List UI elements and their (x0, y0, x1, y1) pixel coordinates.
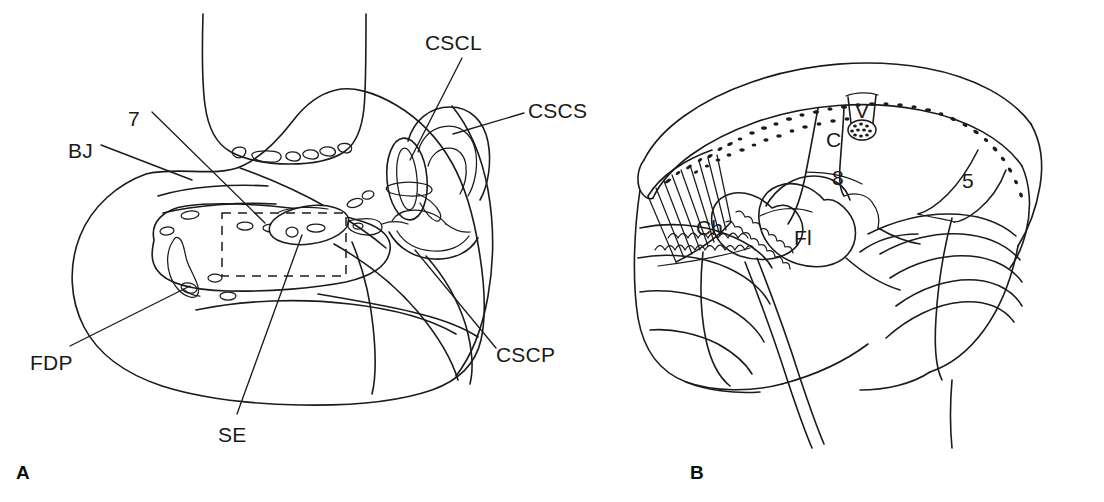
mastoid-contour-1 (158, 185, 268, 196)
leader-se (237, 235, 302, 414)
petrous-contour-2 (426, 256, 472, 384)
panel-b-drawing (634, 63, 1041, 448)
label-7: 7 (128, 108, 140, 129)
panel-letter-a: A (16, 463, 30, 482)
panel-a-drawing (70, 14, 524, 414)
brainstem-cut-lower (846, 258, 900, 290)
leader-bj (101, 145, 192, 180)
label-c: C (826, 129, 841, 150)
label-cscl: CSCL (425, 32, 482, 53)
label-bj: BJ (68, 140, 93, 161)
label-fl: Fl (794, 227, 812, 248)
cerebellum-right-folia (868, 214, 1022, 380)
tentorium-right-cap (1018, 124, 1042, 246)
label-fdp: FDP (30, 352, 73, 373)
vessel-left-outer (745, 262, 812, 448)
petrous-contour-6 (352, 242, 375, 394)
label-v: V (855, 100, 869, 121)
label-cscs: CSCS (528, 100, 587, 121)
petrous-contour-4 (318, 294, 478, 337)
nerve-c-edge (788, 108, 818, 224)
cerebellum-right-outline (930, 246, 1018, 372)
canal-crus (386, 182, 432, 196)
flocculus (712, 184, 856, 267)
cerebellum-bottom-right (860, 372, 930, 390)
panel-letter-b: B (690, 463, 704, 482)
label-se: SE (218, 424, 246, 445)
cerebellum-bottom-left (686, 382, 760, 393)
label-5: 5 (962, 170, 974, 191)
vessel-right (951, 380, 953, 448)
vessel-left-inner (757, 258, 824, 444)
label-8: 8 (832, 167, 844, 188)
figure-canvas (0, 0, 1104, 502)
petrous-contour-5 (196, 301, 456, 334)
leader-fdp (70, 286, 190, 346)
label-cscp: CSCP (496, 344, 555, 365)
lateral-semicircular-canal (384, 136, 441, 221)
label-ch: Ch (696, 217, 723, 238)
figure-root: CSCL CSCS 7 BJ CSCP FDP SE V C 8 5 Ch Fl… (0, 0, 1104, 502)
endolymphatic-sac (267, 201, 352, 250)
